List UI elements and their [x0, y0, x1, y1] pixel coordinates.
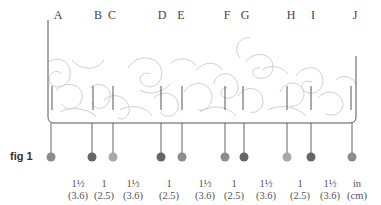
measurement: 1½ (3.6)	[256, 178, 276, 202]
pin-head-icon	[109, 153, 118, 162]
measurement-inches: 1	[159, 178, 179, 190]
fabric-illustration	[0, 0, 381, 205]
pin-head-icon	[240, 153, 249, 162]
measurement: 1 (2.5)	[94, 178, 114, 202]
pin-head-icon	[178, 153, 187, 162]
pin-head-icon	[157, 153, 166, 162]
pin-head-icon	[88, 153, 97, 162]
measurement: 1½ (3.6)	[123, 178, 143, 202]
pin-heads	[47, 153, 357, 162]
pin-head-icon	[47, 153, 56, 162]
label-J: J	[353, 8, 358, 23]
unit-cm: (cm)	[347, 190, 367, 202]
measurement-inches: 1	[224, 178, 244, 190]
label-G: G	[241, 8, 250, 23]
measurement-cm: (3.6)	[256, 190, 276, 202]
measurement: 1½ (3.6)	[195, 178, 215, 202]
fabric-outline	[48, 20, 356, 123]
label-A: A	[54, 8, 63, 23]
pin-stems	[51, 123, 352, 153]
unit-inches: in	[347, 178, 367, 190]
pin-head-icon	[348, 153, 357, 162]
measurement: 1 (2.5)	[290, 178, 310, 202]
measurement-cm: (3.6)	[195, 190, 215, 202]
measurement-inches: 1½	[68, 178, 88, 190]
label-H: H	[287, 8, 296, 23]
label-C: C	[108, 8, 116, 23]
label-D: D	[158, 8, 167, 23]
measurement-cm: (2.5)	[224, 190, 244, 202]
pin-head-icon	[283, 153, 292, 162]
measurement-units: in (cm)	[347, 178, 367, 202]
measurement: 1½ (3.6)	[320, 178, 340, 202]
label-E: E	[177, 8, 184, 23]
measurement-cm: (3.6)	[123, 190, 143, 202]
measurement-cm: (3.6)	[320, 190, 340, 202]
measurement-inches: 1½	[256, 178, 276, 190]
label-F: F	[224, 8, 231, 23]
measurement-cm: (2.5)	[94, 190, 114, 202]
measurement: 1½ (3.6)	[68, 178, 88, 202]
measurement-cm: (3.6)	[68, 190, 88, 202]
measurement-cm: (2.5)	[159, 190, 179, 202]
measurement-cm: (2.5)	[290, 190, 310, 202]
label-B: B	[94, 8, 102, 23]
measurement-inches: 1½	[320, 178, 340, 190]
measurement-inches: 1½	[195, 178, 215, 190]
pin-head-icon	[221, 153, 230, 162]
figure-label: fig 1	[10, 150, 33, 162]
measurement-inches: 1½	[123, 178, 143, 190]
scroll-pattern	[48, 38, 356, 119]
pin-head-icon	[307, 153, 316, 162]
label-I: I	[311, 8, 315, 23]
fold-marks	[52, 86, 351, 110]
measurement-inches: 1	[94, 178, 114, 190]
measurement: 1 (2.5)	[224, 178, 244, 202]
fabric-diagram: A B C D E F G H I J fig 1 1½ (3.6) 1 (2.…	[0, 0, 381, 205]
measurement-inches: 1	[290, 178, 310, 190]
measurement: 1 (2.5)	[159, 178, 179, 202]
